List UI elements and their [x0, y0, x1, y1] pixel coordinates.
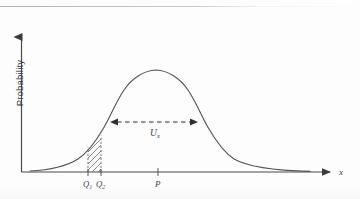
ux-label: Ux [150, 128, 160, 139]
probability-density-curve [30, 70, 310, 171]
scan-artifact-bottom [0, 185, 360, 199]
y-axis-label: Probability [14, 60, 25, 107]
probability-distribution-plot: Ux Q1 Q2 P x [0, 0, 360, 199]
ux-label-subscript: x [156, 132, 160, 139]
y-axis-label-container: Probability [9, 47, 23, 119]
x-axis-label: x [338, 167, 343, 177]
figure-root: Ux Q1 Q2 P x Probability [0, 0, 360, 199]
